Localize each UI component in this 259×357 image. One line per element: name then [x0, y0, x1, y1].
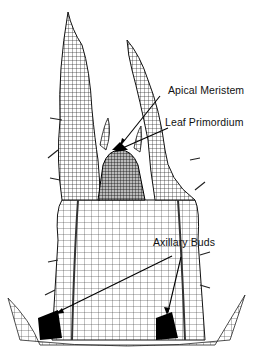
meristem-dome — [98, 150, 145, 200]
label-leaf-primordium: Leaf Primordium — [165, 116, 244, 128]
primordium-left — [100, 118, 110, 150]
primordium-right — [134, 126, 142, 152]
shoot-section-illustration — [0, 0, 259, 357]
shoot-tip-diagram: Apical Meristem Leaf Primordium Axillary… — [0, 0, 259, 357]
left-leaf — [58, 12, 100, 200]
label-axillary-buds: Axillary Buds — [153, 236, 215, 248]
label-apical-meristem: Apical Meristem — [168, 84, 244, 96]
axillary-bud-left — [38, 310, 62, 340]
